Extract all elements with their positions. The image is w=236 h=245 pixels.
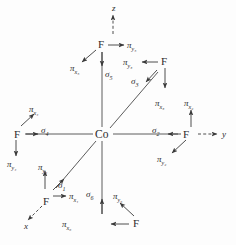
sigma-label-1: σ1 [58, 181, 65, 192]
pi-x5-arrow [82, 50, 96, 62]
pi-label-x6: πx₆ [62, 220, 71, 231]
pi-label-x1: πx₁ [69, 192, 78, 203]
sigma-label-4: σ4 [41, 126, 48, 137]
center-atom-co: Co [95, 129, 108, 141]
axis-x-line [28, 206, 42, 220]
ligand-atom-f6: F [133, 218, 139, 229]
axis-label-x: x [24, 222, 28, 231]
axis-lines [28, 15, 217, 220]
pi-y2-arrow [172, 140, 186, 153]
pi-label-y4: πy₄ [7, 160, 16, 171]
pi-label-y6: πy₆ [113, 192, 122, 203]
sigma-label-6: σ6 [86, 190, 93, 201]
pi-label-y2: πy₂ [157, 155, 166, 166]
sigma-label-2: σ2 [152, 126, 159, 137]
pi-label-x2: πx₂ [184, 99, 193, 110]
ligand-atom-f4: F [14, 129, 20, 140]
axis-label-y: y [222, 130, 226, 139]
sigma-label-3: σ3 [131, 77, 138, 88]
pi-label-x3: πx₃ [155, 99, 164, 110]
ligand-atom-f5: F [98, 39, 104, 50]
axis-label-z: z [112, 4, 116, 13]
pi-x4-arrow [21, 114, 34, 126]
pi-label-x5: πx₅ [70, 64, 79, 75]
pi-label-y5: πy₅ [127, 41, 136, 52]
molecular-vector-diagram [0, 0, 236, 245]
ligand-atom-f1: F [43, 196, 49, 207]
pi-label-y3: πy₃ [123, 58, 132, 69]
pi-label-y1: πy₁ [38, 163, 47, 174]
pi-y6-arrow [120, 203, 134, 216]
ligand-atom-f3: F [161, 56, 167, 67]
ligand-atom-f2: F [183, 129, 189, 140]
pi-label-x4: πx₄ [29, 105, 38, 116]
sigma-label-5: σ5 [105, 70, 112, 81]
